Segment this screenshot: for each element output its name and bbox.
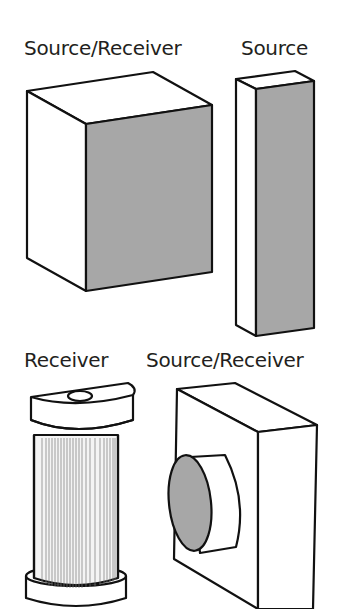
tall-bar-shape [236, 71, 314, 336]
large-cube-shape [27, 72, 212, 291]
receiver-cylinder-shape [26, 383, 135, 606]
block-with-disk-shape [164, 383, 317, 609]
diagram-canvas [0, 0, 337, 609]
